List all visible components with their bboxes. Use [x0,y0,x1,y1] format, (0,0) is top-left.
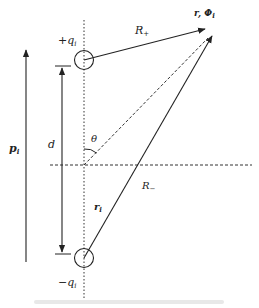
dipole-diagram: +qi −qi pi d θ R+ R− ri r, Φi [0,0,259,308]
r-plus-label: R+ [134,24,149,38]
position-vector-label: ri [94,201,102,214]
dipole-moment-label: pi [9,142,20,156]
theta-label: θ [91,133,97,144]
origin-to-point-line [84,38,208,165]
r-minus-arrow [84,36,212,258]
positive-charge-label: +qi [58,34,77,48]
separation-label: d [48,138,55,151]
r-minus-label: R− [141,180,156,193]
caption-illegible [34,300,224,304]
negative-charge-label: −qi [58,276,77,290]
field-point-label: r, Φi [194,8,215,20]
theta-arc [84,149,97,153]
